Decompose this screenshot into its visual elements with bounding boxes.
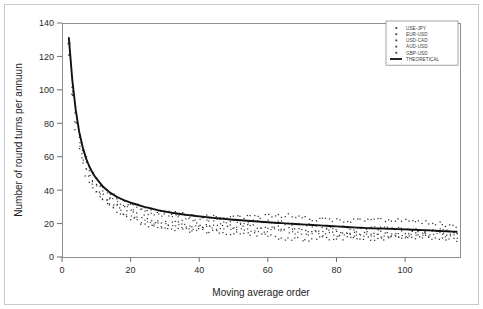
data-point <box>353 218 354 219</box>
data-point <box>401 230 402 231</box>
y-tick-label: 140 <box>39 18 54 28</box>
data-point <box>113 207 114 208</box>
data-point <box>178 221 179 222</box>
data-point <box>109 203 110 204</box>
data-point <box>370 240 371 241</box>
data-point <box>308 231 309 232</box>
data-point <box>71 94 72 95</box>
data-point <box>256 235 257 236</box>
data-point <box>270 229 271 230</box>
data-point <box>391 220 392 221</box>
data-point <box>428 237 429 238</box>
data-point <box>291 216 292 217</box>
data-point <box>350 234 351 235</box>
data-point <box>278 214 279 215</box>
data-point <box>154 214 155 215</box>
data-point <box>448 238 449 239</box>
data-point <box>378 229 379 230</box>
data-point <box>449 224 450 225</box>
data-point <box>292 229 293 230</box>
chart-figure: 020406080100120140020406080100 USE-JPYEU… <box>0 0 483 309</box>
data-point <box>329 239 330 240</box>
data-point <box>373 233 374 234</box>
data-point <box>141 208 142 209</box>
data-point <box>309 219 310 220</box>
data-point <box>176 214 177 215</box>
data-point <box>433 234 434 235</box>
data-point <box>415 235 416 236</box>
data-point <box>222 225 223 226</box>
data-point <box>342 239 343 240</box>
data-point <box>280 230 281 231</box>
data-point <box>288 213 289 214</box>
data-point <box>387 236 388 237</box>
data-point <box>171 228 172 229</box>
data-point <box>144 210 145 211</box>
data-point <box>445 236 446 237</box>
data-point <box>248 232 249 233</box>
data-point <box>89 182 90 183</box>
data-point <box>356 231 357 232</box>
data-point <box>172 222 173 223</box>
data-point <box>206 232 207 233</box>
data-point <box>417 234 418 235</box>
data-point <box>346 233 347 234</box>
data-point <box>298 228 299 229</box>
data-point <box>366 234 367 235</box>
data-point <box>384 226 385 227</box>
data-point <box>275 215 276 216</box>
data-point <box>343 221 344 222</box>
data-point <box>103 194 104 195</box>
data-point <box>288 227 289 228</box>
data-point <box>247 224 248 225</box>
data-point <box>260 218 261 219</box>
data-point <box>248 222 249 223</box>
data-point <box>402 235 403 236</box>
data-point <box>216 216 217 217</box>
legend-label: AUD-USD <box>406 44 428 49</box>
data-point <box>261 233 262 234</box>
data-point <box>328 230 329 231</box>
data-point <box>442 224 443 225</box>
data-point <box>316 239 317 240</box>
data-point <box>439 239 440 240</box>
data-point <box>436 233 437 234</box>
data-point <box>374 219 375 220</box>
data-point <box>257 228 258 229</box>
data-point <box>342 232 343 233</box>
data-point <box>223 228 224 229</box>
y-tick-label: 60 <box>44 152 54 162</box>
data-point <box>445 239 446 240</box>
data-point <box>297 232 298 233</box>
data-point <box>81 153 82 154</box>
data-point <box>312 220 313 221</box>
legend-dot-swatch <box>395 33 397 35</box>
data-point <box>405 219 406 220</box>
data-point <box>120 210 121 211</box>
data-point <box>387 232 388 233</box>
data-point <box>359 238 360 239</box>
data-point <box>271 227 272 228</box>
data-point <box>344 234 345 235</box>
data-point <box>415 221 416 222</box>
data-point <box>322 218 323 219</box>
data-point <box>305 230 306 231</box>
data-point <box>237 222 238 223</box>
data-point <box>364 220 365 221</box>
x-tick-label: 60 <box>263 265 273 275</box>
data-point <box>208 232 209 233</box>
data-point <box>407 237 408 238</box>
data-point <box>398 236 399 237</box>
data-point <box>126 210 127 211</box>
data-point <box>254 230 255 231</box>
data-point <box>133 211 134 212</box>
data-point <box>335 229 336 230</box>
data-point <box>249 215 250 216</box>
data-point <box>412 231 413 232</box>
data-point <box>243 218 244 219</box>
data-point <box>322 236 323 237</box>
data-point <box>182 228 183 229</box>
data-point <box>450 234 451 235</box>
data-point <box>311 238 312 239</box>
data-point <box>278 221 279 222</box>
